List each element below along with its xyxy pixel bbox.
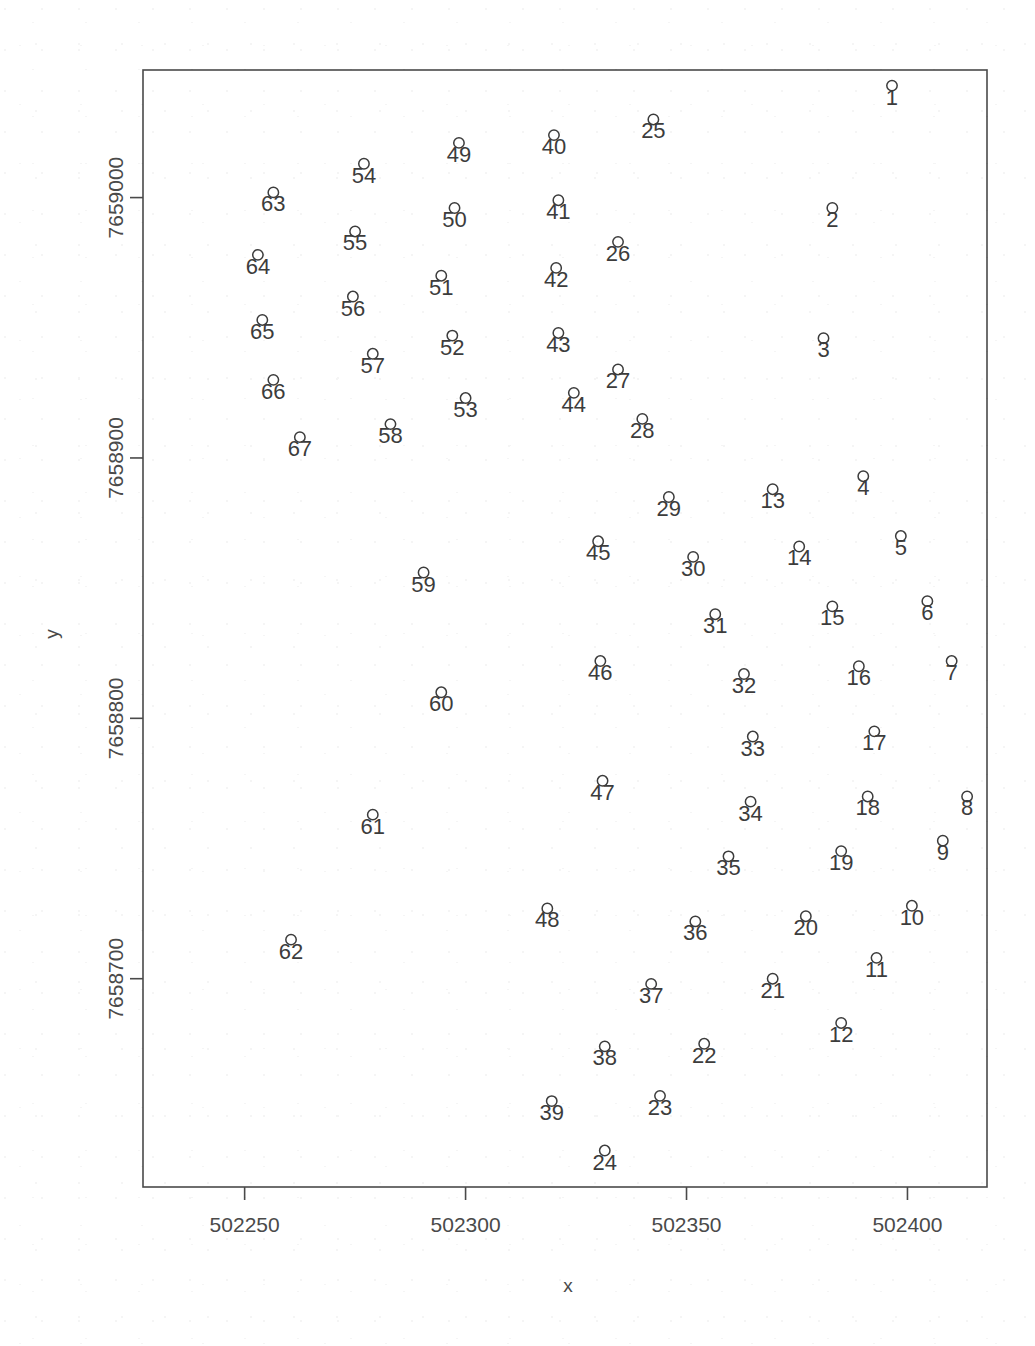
data-point: 64 bbox=[246, 250, 270, 279]
point-label: 26 bbox=[606, 241, 630, 266]
point-label: 48 bbox=[535, 907, 559, 932]
point-label: 24 bbox=[593, 1150, 617, 1175]
point-label: 33 bbox=[741, 736, 765, 761]
point-label: 27 bbox=[606, 368, 630, 393]
data-point: 26 bbox=[606, 237, 630, 266]
y-tick-label: 7658900 bbox=[104, 417, 127, 499]
point-label: 20 bbox=[794, 915, 818, 940]
point-label: 51 bbox=[429, 275, 453, 300]
data-point: 23 bbox=[648, 1091, 672, 1120]
point-label: 42 bbox=[544, 267, 568, 292]
x-tick-label: 502350 bbox=[651, 1213, 721, 1236]
data-points-layer: 1234567891011121314151617181920212223242… bbox=[246, 80, 974, 1174]
point-label: 47 bbox=[590, 780, 614, 805]
y-axis-title: y bbox=[41, 629, 62, 639]
x-axis: 502250502300502350502400 bbox=[210, 1187, 943, 1236]
point-label: 32 bbox=[732, 673, 756, 698]
data-point: 61 bbox=[361, 809, 385, 838]
data-point: 29 bbox=[657, 492, 681, 521]
point-label: 63 bbox=[261, 191, 285, 216]
data-point: 11 bbox=[865, 953, 888, 982]
data-point: 34 bbox=[738, 796, 762, 825]
point-label: 1 bbox=[886, 85, 898, 110]
point-label: 11 bbox=[865, 957, 888, 982]
point-label: 58 bbox=[378, 423, 402, 448]
data-point: 39 bbox=[540, 1096, 564, 1125]
point-label: 59 bbox=[411, 572, 435, 597]
data-point: 31 bbox=[703, 609, 727, 638]
data-point: 43 bbox=[546, 328, 570, 357]
point-label: 49 bbox=[447, 142, 471, 167]
data-point: 40 bbox=[542, 130, 566, 159]
point-label: 17 bbox=[862, 730, 886, 755]
data-point: 20 bbox=[794, 911, 818, 940]
data-point: 28 bbox=[630, 414, 654, 443]
point-label: 64 bbox=[246, 254, 270, 279]
x-axis-title: x bbox=[563, 1275, 573, 1296]
data-point: 52 bbox=[440, 330, 464, 359]
point-label: 67 bbox=[288, 436, 312, 461]
data-point: 15 bbox=[820, 601, 844, 630]
point-label: 9 bbox=[937, 840, 949, 865]
point-label: 29 bbox=[657, 496, 681, 521]
point-label: 15 bbox=[820, 605, 844, 630]
data-point: 48 bbox=[535, 903, 559, 932]
point-label: 19 bbox=[829, 850, 853, 875]
data-point: 7 bbox=[946, 656, 958, 685]
data-point: 35 bbox=[716, 851, 740, 880]
data-point: 13 bbox=[760, 484, 784, 513]
point-label: 21 bbox=[760, 978, 784, 1003]
plot-frame bbox=[143, 70, 987, 1187]
data-point: 50 bbox=[442, 203, 466, 232]
point-label: 41 bbox=[546, 199, 570, 224]
point-label: 39 bbox=[540, 1100, 564, 1125]
point-label: 28 bbox=[630, 418, 654, 443]
data-point: 36 bbox=[683, 916, 707, 945]
data-point: 1 bbox=[886, 80, 898, 109]
data-point: 46 bbox=[588, 656, 612, 685]
data-point: 8 bbox=[961, 791, 973, 820]
point-label: 2 bbox=[826, 207, 838, 232]
data-point: 53 bbox=[453, 393, 477, 422]
data-point: 66 bbox=[261, 375, 285, 404]
point-label: 66 bbox=[261, 379, 285, 404]
data-point: 62 bbox=[279, 934, 303, 963]
data-point: 67 bbox=[288, 432, 312, 461]
point-label: 23 bbox=[648, 1095, 672, 1120]
point-label: 35 bbox=[716, 855, 740, 880]
data-point: 55 bbox=[343, 226, 367, 255]
data-point: 32 bbox=[732, 669, 756, 698]
point-label: 44 bbox=[562, 392, 586, 417]
point-label: 22 bbox=[692, 1043, 716, 1068]
point-label: 56 bbox=[341, 296, 365, 321]
y-tick-label: 7658800 bbox=[104, 677, 127, 759]
point-label: 6 bbox=[921, 600, 933, 625]
data-point: 42 bbox=[544, 263, 568, 292]
point-label: 8 bbox=[961, 795, 973, 820]
point-label: 43 bbox=[546, 332, 570, 357]
data-point: 9 bbox=[937, 836, 949, 865]
point-label: 61 bbox=[361, 814, 385, 839]
data-point: 60 bbox=[429, 687, 453, 716]
data-point: 19 bbox=[829, 846, 853, 875]
point-label: 34 bbox=[738, 801, 762, 826]
point-label: 57 bbox=[361, 353, 385, 378]
data-point: 65 bbox=[250, 315, 274, 344]
scatter-plot-figure: 502250502300502350502400 765870076588007… bbox=[0, 0, 1035, 1346]
point-label: 13 bbox=[760, 488, 784, 513]
data-point: 16 bbox=[847, 661, 871, 690]
point-label: 60 bbox=[429, 691, 453, 716]
data-point: 12 bbox=[829, 1018, 853, 1047]
x-tick-label: 502250 bbox=[210, 1213, 280, 1236]
data-point: 37 bbox=[639, 979, 663, 1008]
data-point: 56 bbox=[341, 291, 365, 320]
point-label: 54 bbox=[352, 163, 376, 188]
point-label: 65 bbox=[250, 319, 274, 344]
data-point: 45 bbox=[586, 536, 610, 565]
data-point: 57 bbox=[361, 349, 385, 378]
point-label: 36 bbox=[683, 920, 707, 945]
data-point: 49 bbox=[447, 138, 471, 167]
scatter-plot-canvas: 502250502300502350502400 765870076588007… bbox=[0, 0, 1035, 1346]
x-tick-label: 502300 bbox=[431, 1213, 501, 1236]
point-label: 31 bbox=[703, 613, 727, 638]
